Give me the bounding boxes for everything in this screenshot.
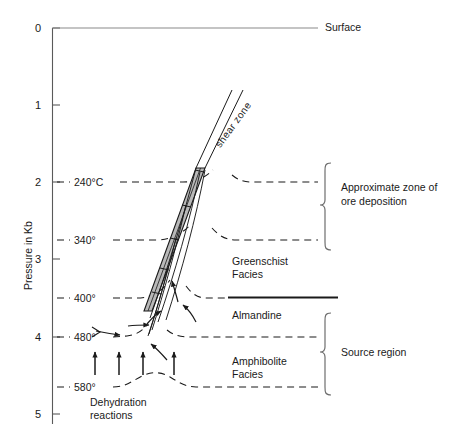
bracket-source-region	[320, 313, 331, 395]
dehydration-label-line2: reactions	[90, 409, 133, 422]
isotherm-label-340: 340°	[74, 234, 96, 247]
isotherm-label-580: 580°	[74, 381, 96, 394]
bracket-label-ore-line1: Approximate zone of	[341, 181, 437, 194]
axis-tick-5: 5	[35, 408, 41, 421]
axis-tick-1: 1	[35, 99, 41, 112]
bracket-label-ore-line2: ore deposition	[341, 195, 407, 208]
fluid-feed-arrows	[96, 281, 196, 360]
figure-canvas: Pressure in Kb 0 1 2 3 4 5 240°C 340° 40…	[0, 0, 457, 442]
facies-greenschist-line1: Greenschist	[232, 255, 288, 268]
facies-almandine: Almandine	[232, 309, 282, 322]
bracket-ore-deposition	[320, 163, 331, 250]
isotherm-label-480: 480°	[74, 331, 96, 344]
dehydration-label-line1: Dehydration	[90, 396, 147, 409]
axis-tick-3: 3	[35, 253, 41, 266]
isotherm-580	[57, 373, 318, 387]
isotherm-label-240: 240°C	[74, 176, 103, 189]
facies-amphibolite-line1: Amphibolite	[232, 355, 287, 368]
facies-greenschist-line2: Facies	[232, 268, 263, 281]
axis-tick-0: 0	[35, 22, 41, 35]
shear-zone-splays	[148, 168, 205, 336]
axis-tick-2: 2	[35, 176, 41, 189]
pressure-axis	[53, 28, 61, 424]
isotherm-label-400: 400°	[74, 292, 96, 305]
y-axis-label: Pressure in Kb	[22, 221, 34, 290]
bracket-label-source-region: Source region	[341, 346, 406, 359]
diagram-svg	[0, 0, 457, 442]
facies-amphibolite-line2: Facies	[232, 368, 263, 381]
axis-tick-4: 4	[35, 331, 41, 344]
surface-label: Surface	[325, 21, 361, 34]
